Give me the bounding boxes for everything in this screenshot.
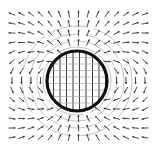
- field-arrows: [9, 11, 149, 141]
- circular-body: [47, 51, 107, 111]
- vector-field-diagram: [0, 0, 153, 158]
